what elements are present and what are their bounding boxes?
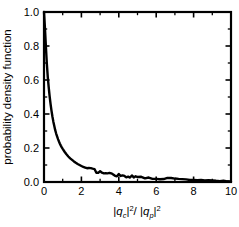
plot-background — [44, 12, 231, 182]
probability-density-chart: 0246810 0.00.20.40.60.81.0 probability d… — [0, 0, 239, 227]
x-tick-label: 10 — [225, 185, 237, 197]
y-tick-label: 1.0 — [24, 6, 39, 18]
y-tick-label: 0.0 — [24, 176, 39, 188]
x-title-exponent-2: 2 — [157, 204, 161, 213]
y-axis-tick-labels: 0.00.20.40.60.81.0 — [24, 6, 39, 188]
x-axis-tick-labels: 0246810 — [41, 185, 237, 197]
figure-container: 0246810 0.00.20.40.60.81.0 probability d… — [0, 0, 239, 227]
y-tick-label: 0.8 — [24, 40, 39, 52]
x-axis-title: |qc|2/ |qp|2 — [113, 204, 160, 220]
y-axis-title: probability density function — [1, 29, 13, 165]
y-tick-label: 0.6 — [24, 74, 39, 86]
x-tick-label: 6 — [153, 185, 159, 197]
y-tick-label: 0.4 — [24, 108, 39, 120]
x-tick-label: 2 — [78, 185, 84, 197]
y-tick-label: 0.2 — [24, 142, 39, 154]
x-tick-label: 8 — [191, 185, 197, 197]
x-tick-label: 0 — [41, 185, 47, 197]
x-tick-label: 4 — [116, 185, 122, 197]
